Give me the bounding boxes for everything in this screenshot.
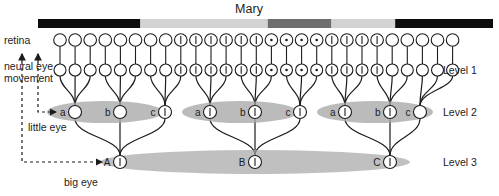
level1-to-level2-edge	[151, 76, 165, 106]
level1-to-level2-edge	[300, 76, 317, 106]
neural-eye-movement-label-line1: neural eye	[4, 60, 53, 72]
level2-node-label-group-2-a: a	[195, 107, 201, 118]
retina-cell-2	[84, 34, 97, 47]
bar-segment-light-gray-1	[140, 19, 267, 28]
level3-node-label-A: A	[104, 157, 111, 168]
retina-cell-1	[69, 34, 82, 47]
level2-node-label-group-2-b: b	[240, 107, 246, 118]
level1-node-0	[54, 64, 66, 76]
retina-cell-14-dot	[270, 39, 273, 42]
level2-node-group-3-c	[414, 106, 427, 119]
bar-segment-mid-gray	[268, 19, 332, 28]
level1-to-level2-edge	[287, 76, 301, 106]
level2-to-level3-edge	[120, 119, 165, 156]
level2-node-group-1-a	[69, 106, 82, 119]
level-3-label: Level 3	[443, 156, 477, 168]
retina-cell-15-dot	[285, 39, 288, 42]
level1-to-level2-edge	[255, 76, 271, 106]
level1-node-15-dot	[285, 69, 288, 72]
retina-cell-26	[446, 34, 459, 47]
level1-node-2	[84, 64, 96, 76]
level2-node-group-1-b	[114, 106, 127, 119]
level2-node-label-group-3-a: a	[330, 107, 336, 118]
little-eye-label: little eye	[28, 121, 67, 133]
level1-node-7	[160, 64, 172, 76]
level1-node-4	[114, 64, 126, 76]
level1-to-level2-edge	[75, 76, 90, 106]
retina-cell-0	[54, 34, 67, 47]
level-1-label: Level 1	[443, 64, 477, 76]
level1-node-22	[386, 64, 398, 76]
bar-segment-light-gray-2	[331, 19, 395, 28]
level1-to-level2-edge	[165, 76, 181, 106]
page-title: Mary	[235, 2, 264, 16]
retina-cell-7	[159, 34, 172, 47]
level2-to-level3-edge	[75, 119, 120, 156]
level1-node-3	[99, 64, 111, 76]
level2-to-level3-edge	[255, 119, 300, 156]
level1-to-level2-edge	[196, 76, 210, 106]
retina-cell-3	[99, 34, 112, 47]
level1-node-14-dot	[270, 69, 273, 72]
level1-to-level2-edge	[120, 76, 136, 106]
retina-cell-17-dot	[315, 39, 318, 42]
retina-cell-16-dot	[300, 39, 303, 42]
level1-to-level2-edge	[332, 76, 345, 106]
level2-node-label-group-3-c: c	[406, 107, 411, 118]
level2-node-label-group-1-c: c	[151, 107, 156, 118]
retina-cell-22	[386, 34, 399, 47]
retina-label: retina	[4, 34, 30, 46]
retina-cell-24	[416, 34, 429, 47]
retina-cell-23	[401, 34, 414, 47]
level2-to-level3-edge	[210, 119, 255, 156]
level1-to-level2-edge	[345, 76, 362, 106]
diagram-canvas: abcabcabcABC Mary retina neural eye move…	[0, 0, 499, 196]
level1-node-25	[432, 64, 444, 76]
level1-node-6	[145, 64, 157, 76]
level1-node-1	[69, 64, 81, 76]
bar-segment-black-left	[38, 19, 140, 28]
level2-to-level3-edge	[345, 119, 390, 156]
level1-to-level2-edge	[60, 76, 75, 106]
level2-to-level3-edge	[390, 119, 420, 156]
level1-node-16-dot	[300, 69, 303, 72]
level2-node-label-group-1-a: a	[60, 107, 66, 118]
retina-cell-5	[129, 34, 142, 47]
level3-node-label-C: C	[373, 157, 380, 168]
level3-node-label-B: B	[239, 157, 246, 168]
retina-cell-25	[431, 34, 444, 47]
stimulus-bar	[38, 19, 493, 28]
bar-segment-black-right	[395, 19, 493, 28]
level2-node-label-group-1-b: b	[105, 107, 111, 118]
level1-node-17-dot	[315, 69, 318, 72]
level1-node-24	[416, 64, 428, 76]
big-eye-label: big eye	[64, 176, 98, 188]
level2-node-label-group-3-b: b	[375, 107, 381, 118]
level2-node-label-group-2-c: c	[286, 107, 291, 118]
neural-eye-movement-label-line2: movement	[4, 72, 53, 84]
level1-node-5	[130, 64, 142, 76]
level-2-label: Level 2	[443, 106, 477, 118]
hierarchy-diagram: abcabcabcABC Mary retina neural eye move…	[0, 0, 499, 196]
retina-cell-4	[114, 34, 127, 47]
connection-edges	[60, 46, 453, 155]
level1-node-23	[401, 64, 413, 76]
level1-to-level2-edge	[210, 76, 226, 106]
retina-cell-6	[144, 34, 157, 47]
